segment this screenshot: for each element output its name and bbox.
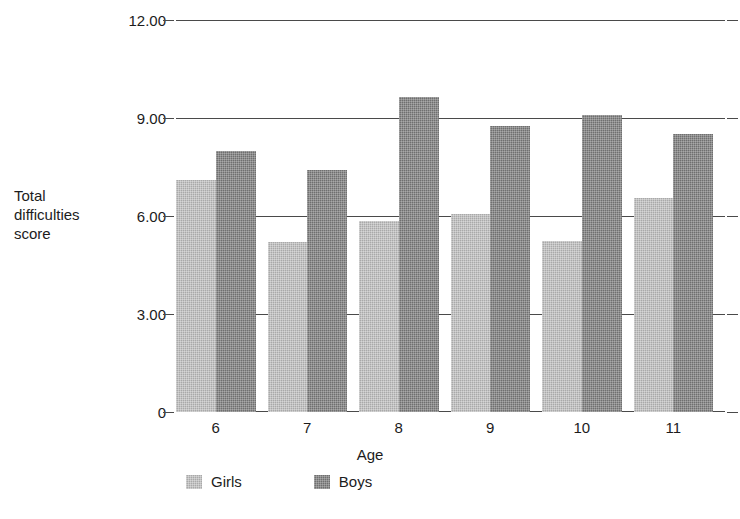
y-axis-tick-label: 12.00	[104, 13, 166, 28]
bar-girls-age-6[interactable]	[176, 180, 216, 412]
bar-girls-age-7[interactable]	[268, 242, 308, 412]
y-axis-tick-label: 9.00	[104, 111, 166, 126]
bar-boys-age-6[interactable]	[216, 151, 256, 412]
x-axis-tick-label: 10	[562, 420, 602, 435]
bar-group	[542, 20, 634, 412]
y-axis-tick-label: 3.00	[104, 307, 166, 322]
bar-group	[359, 20, 451, 412]
axis-tick-mark	[727, 412, 738, 413]
x-axis-tick-label: 6	[196, 420, 236, 435]
bar-boys-age-11[interactable]	[673, 134, 713, 412]
axis-tick-mark	[163, 118, 174, 119]
bar-boys-age-9[interactable]	[490, 126, 530, 412]
x-axis-tick-label: 7	[287, 420, 327, 435]
x-axis-tick-label: 9	[470, 420, 510, 435]
axis-tick-mark	[727, 314, 738, 315]
legend-label: Boys	[339, 474, 372, 489]
chart-legend: GirlsBoys	[186, 474, 372, 489]
bar-girls-age-11[interactable]	[634, 198, 674, 412]
bar-boys-age-7[interactable]	[307, 170, 347, 412]
legend-swatch-girls	[186, 475, 202, 489]
x-axis-tick-label: 11	[653, 420, 693, 435]
axis-tick-mark	[163, 216, 174, 217]
axis-tick-mark	[727, 118, 738, 119]
bar-group	[634, 20, 726, 412]
axis-tick-mark	[163, 20, 174, 21]
legend-label: Girls	[211, 474, 242, 489]
axis-tick-mark	[163, 412, 174, 413]
bar-series-container	[176, 20, 725, 412]
y-axis-title: Total difficulties score	[14, 186, 110, 243]
chart-figure: Total difficulties score 03.006.009.0012…	[0, 0, 740, 519]
legend-swatch-boys	[314, 475, 330, 489]
bar-girls-age-10[interactable]	[542, 241, 582, 413]
plot-area	[176, 20, 725, 412]
bar-boys-age-10[interactable]	[582, 115, 622, 412]
bar-boys-age-8[interactable]	[399, 97, 439, 412]
y-axis-tick-label: 6.00	[104, 209, 166, 224]
bar-group	[268, 20, 360, 412]
bar-girls-age-8[interactable]	[359, 221, 399, 412]
bar-group	[176, 20, 268, 412]
bar-group	[451, 20, 543, 412]
axis-tick-mark	[727, 20, 738, 21]
page-caption	[0, 506, 740, 519]
y-axis-tick-labels: 03.006.009.0012.00	[104, 0, 166, 440]
bar-girls-age-9[interactable]	[451, 214, 491, 412]
axis-tick-mark	[727, 216, 738, 217]
x-axis-tick-label: 8	[379, 420, 419, 435]
legend-item-boys[interactable]: Boys	[314, 474, 372, 489]
y-axis-tick-label: 0	[104, 405, 166, 420]
axis-tick-mark	[163, 314, 174, 315]
legend-item-girls[interactable]: Girls	[186, 474, 242, 489]
x-axis-title: Age	[0, 446, 740, 463]
